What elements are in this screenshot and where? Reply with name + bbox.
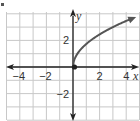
closed-dot xyxy=(72,64,77,69)
graph: −4−2242−2 x y xyxy=(0,0,140,121)
x-tick-label: 4 xyxy=(123,70,129,82)
y-tick-label: 2 xyxy=(63,34,69,46)
x-tick-label: −2 xyxy=(39,70,52,82)
bullet-marker xyxy=(1,3,4,6)
x-axis-label: x xyxy=(132,69,139,83)
x-tick-label: −4 xyxy=(13,70,26,82)
y-tick-label: −2 xyxy=(56,88,69,100)
x-tick-label: 2 xyxy=(97,70,103,82)
curve-line xyxy=(73,19,131,67)
y-axis-label: y xyxy=(75,9,82,23)
